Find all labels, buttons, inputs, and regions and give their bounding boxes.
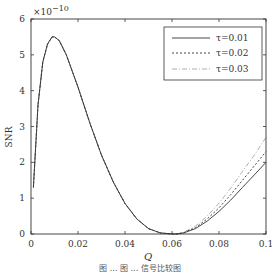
x-tick-label: 0.02 xyxy=(68,239,88,249)
x-tick-label: 0.06 xyxy=(162,239,182,249)
legend-label-1: τ=0.01 xyxy=(216,33,249,43)
y-axis-label: SNR xyxy=(4,126,14,147)
snr-line-chart: 00.020.040.060.080.10123456 ×10−10 SNR Q… xyxy=(0,0,278,272)
y-tick-label: 3 xyxy=(19,122,25,132)
legend-label-2: τ=0.02 xyxy=(216,48,249,58)
x-tick-label: 0.1 xyxy=(259,239,273,249)
legend-label-3: τ=0.03 xyxy=(216,64,249,74)
legend: τ=0.01 τ=0.02 τ=0.03 xyxy=(164,27,262,80)
y-axis-multiplier: ×10−10 xyxy=(33,4,69,17)
y-tick-label: 0 xyxy=(19,229,25,239)
figure-caption: 图 ... 图 ... 信号比较图 xyxy=(99,263,180,272)
y-tick-label: 6 xyxy=(19,14,25,24)
x-tick-label: 0.04 xyxy=(115,239,135,249)
x-tick-label: 0.08 xyxy=(209,239,229,249)
x-tick-label: 0 xyxy=(28,239,34,249)
y-tick-label: 5 xyxy=(19,50,25,60)
y-tick-label: 1 xyxy=(19,193,25,203)
y-tick-label: 4 xyxy=(19,86,25,96)
y-tick-label: 2 xyxy=(19,157,25,167)
x-axis-label: Q xyxy=(144,251,152,262)
